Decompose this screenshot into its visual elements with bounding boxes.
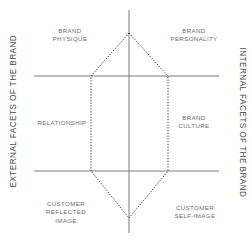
internal-facets-label: INTERNAL FACETS OF THE BRAND <box>238 48 247 188</box>
facet-relationship: RELATIONSHIP <box>26 119 98 127</box>
facet-brand-culture: BRAND CULTURE <box>158 114 230 131</box>
external-facets-label: EXTERNAL FACETS OF THE BRAND <box>9 48 18 188</box>
facet-customer-self-image: CUSTOMER SELF-IMAGE <box>156 204 234 221</box>
brand-identity-prism-diagram: EXTERNAL FACETS OF THE BRAND INTERNAL FA… <box>0 0 252 243</box>
facet-customer-reflected-image: CUSTOMER REFLECTED IMAGE <box>30 200 102 225</box>
facet-brand-physique: BRAND PHYSIQUE <box>34 27 106 44</box>
facet-brand-personality: BRAND PERSONALITY <box>154 27 234 44</box>
